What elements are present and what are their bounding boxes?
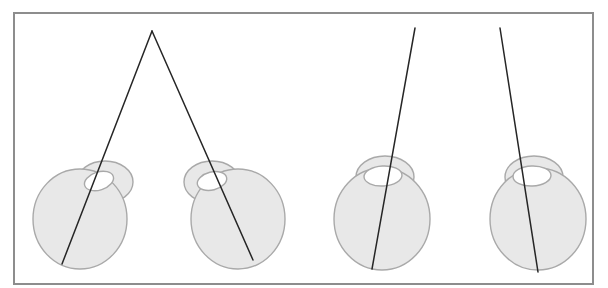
diagram-canvas — [0, 0, 608, 288]
balloon-1 — [33, 161, 133, 269]
balloon-4 — [490, 156, 586, 270]
balloons-and-lines-svg — [0, 0, 608, 288]
balloon-2 — [184, 161, 285, 269]
balloon-4-opening — [513, 165, 552, 186]
